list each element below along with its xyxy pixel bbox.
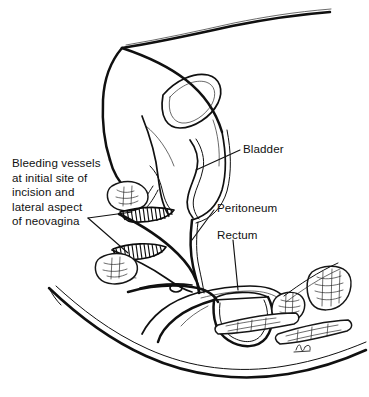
- medical-illustration-figure: Bleeding vessels at initial site of inci…: [0, 0, 369, 397]
- label-rectum: Rectum: [217, 228, 258, 243]
- sacrum: [215, 263, 352, 344]
- label-bladder: Bladder: [243, 142, 284, 157]
- artist-signature: [294, 345, 310, 352]
- pubic-symphysis: [107, 182, 148, 211]
- label-bleeding-vessels: Bleeding vessels at initial site of inci…: [12, 156, 101, 229]
- label-peritoneum: Peritoneum: [217, 201, 277, 216]
- leader-rectum: [233, 240, 238, 290]
- abdominal-wall: [103, 9, 331, 190]
- perineal-tissue: [95, 254, 137, 284]
